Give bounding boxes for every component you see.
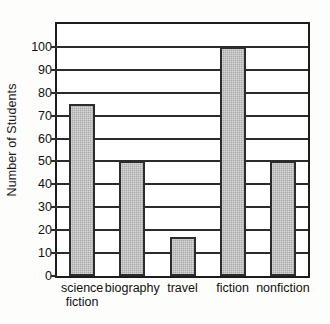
x-axis-tick-label: fiction bbox=[216, 281, 249, 295]
bar bbox=[270, 161, 296, 276]
gridline bbox=[57, 46, 308, 48]
y-axis-tick bbox=[51, 138, 57, 140]
y-axis-tick bbox=[51, 92, 57, 94]
y-axis-tick-label: 30 bbox=[22, 201, 52, 214]
y-axis-tick-labels: 0102030405060708090100 bbox=[22, 22, 52, 278]
gridline bbox=[57, 92, 308, 94]
y-axis-title-text: Number of Students bbox=[5, 84, 19, 197]
y-axis-tick bbox=[51, 252, 57, 254]
y-axis-tick-label: 100 bbox=[22, 41, 52, 54]
y-axis-tick bbox=[51, 115, 57, 117]
y-axis-tick-label: 40 bbox=[22, 178, 52, 191]
bar-chart: Number of Students 010203040506070809010… bbox=[0, 0, 330, 324]
y-axis-tick bbox=[51, 206, 57, 208]
plot-area bbox=[55, 22, 310, 278]
y-axis-tick-label: 90 bbox=[22, 64, 52, 77]
bar bbox=[119, 161, 145, 276]
y-axis-tick-label: 60 bbox=[22, 132, 52, 145]
gridline bbox=[57, 69, 308, 71]
y-axis-tick bbox=[51, 229, 57, 231]
x-axis-tick-labels: science fictionbiographytravelfictionnon… bbox=[55, 281, 310, 324]
y-axis-tick-label: 20 bbox=[22, 224, 52, 237]
y-axis-title: Number of Students bbox=[0, 0, 24, 280]
bar bbox=[69, 104, 95, 276]
x-axis-tick-label: science fiction bbox=[61, 281, 103, 309]
x-axis-tick-label: biography bbox=[105, 281, 160, 295]
bar bbox=[220, 47, 246, 276]
y-axis-tick bbox=[51, 275, 57, 277]
x-axis-tick-label: travel bbox=[167, 281, 198, 295]
y-axis-tick bbox=[51, 160, 57, 162]
bar bbox=[170, 237, 196, 276]
y-axis-tick bbox=[51, 46, 57, 48]
y-axis-tick bbox=[51, 183, 57, 185]
y-axis-tick-label: 0 bbox=[22, 270, 52, 283]
x-axis-tick-label: nonfiction bbox=[256, 281, 310, 295]
y-axis-tick-label: 70 bbox=[22, 109, 52, 122]
y-axis-tick-label: 80 bbox=[22, 86, 52, 99]
y-axis-tick-label: 50 bbox=[22, 155, 52, 168]
y-axis-tick-label: 10 bbox=[22, 247, 52, 260]
plot-inner bbox=[57, 24, 308, 276]
y-axis-tick bbox=[51, 69, 57, 71]
